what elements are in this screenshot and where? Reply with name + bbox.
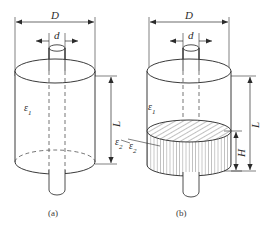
panel-caption-a: (a)	[48, 208, 58, 218]
eps1-a-subscript: 1	[28, 109, 32, 117]
dim-label-d-b: d	[188, 30, 194, 41]
material-label-eps2-a: ε2	[129, 135, 136, 155]
panel-a-drawing	[15, 17, 130, 195]
material-label-eps1-a: ε1	[24, 97, 31, 117]
figure-drawing	[0, 0, 268, 235]
dim-label-L-b: L	[249, 122, 261, 128]
dim-label-d-a: d	[54, 30, 60, 41]
dim-label-L-b-wrap: L	[245, 122, 263, 128]
eps2-a-subscript: 2	[133, 147, 137, 155]
dielectric2-disc-b	[145, 118, 235, 180]
figure-canvas: D d L ε1 ε2 (a) D d L H ε1 ε2 (b)	[0, 0, 268, 235]
dim-label-D-b: D	[185, 10, 193, 21]
material-label-eps2-b: ε2	[115, 131, 122, 151]
rod-bottom-b	[183, 172, 199, 197]
eps1-b-subscript: 1	[152, 108, 156, 116]
dim-label-H-b-wrap: H	[231, 149, 249, 157]
panel-caption-b: (b)	[176, 208, 187, 218]
eps2-b-subscript: 2	[119, 143, 123, 151]
dim-label-D-a: D	[51, 10, 59, 21]
material-label-eps1-b: ε1	[148, 96, 155, 116]
dim-label-H-b: H	[235, 149, 247, 157]
dim-label-L-a: L	[110, 121, 122, 127]
rod-bottom-a	[49, 170, 65, 195]
dim-label-L-a-wrap: L	[106, 121, 124, 127]
